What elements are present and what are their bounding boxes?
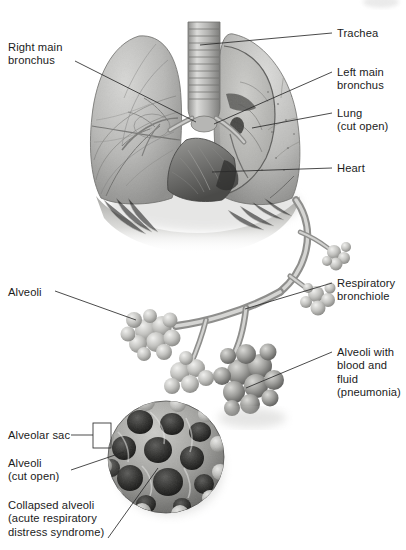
label-heart: Heart — [337, 162, 365, 175]
label-right-main-bronchus: Right main bronchus — [8, 41, 62, 68]
label-lung-cut-open: Lung (cut open) — [337, 107, 388, 134]
respiratory-anatomy-figure: Right main bronchus Trachea Left main br… — [0, 0, 406, 550]
label-trachea: Trachea — [337, 27, 378, 40]
scan-artifact — [363, 0, 399, 8]
lungs-group — [86, 22, 310, 253]
alveoli-cavities — [96, 393, 232, 523]
label-left-main-bronchus: Left main bronchus — [337, 66, 384, 93]
pneumonia-cluster — [213, 344, 284, 417]
alveolar-sac-bracket — [93, 423, 111, 448]
label-alveolar-sac: Alveolar sac — [8, 429, 70, 442]
label-alveoli-pneumonia: Alveoli with blood and fluid (pneumonia) — [337, 346, 401, 400]
label-collapsed-alveoli: Collapsed alveoli (acute respiratory dis… — [8, 499, 104, 539]
label-respiratory-bronchiole: Respiratory bronchiole — [337, 277, 395, 304]
label-alveoli: Alveoli — [8, 286, 42, 299]
label-alveoli-cut-open: Alveoli (cut open) — [8, 457, 59, 484]
leader-alveoli — [55, 291, 136, 320]
alveolar-sac-cut-open — [96, 393, 232, 523]
trachea — [188, 22, 220, 126]
alveoli-clusters — [121, 242, 352, 428]
